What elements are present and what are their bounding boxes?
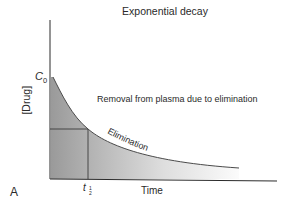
c0-subscript: 0 — [43, 76, 47, 85]
half-life-tick-label: t 1 2 — [83, 183, 86, 193]
area-under-curve — [51, 77, 239, 179]
x-axis — [50, 179, 277, 181]
thalf-fraction: 1 2 — [89, 186, 92, 195]
elimination-annotation: Removal from plasma due to elimination — [97, 95, 258, 104]
chart-title: Exponential decay — [0, 6, 287, 17]
y-axis-label: [Drug] — [21, 80, 32, 120]
plot-area: Elimination — [0, 0, 287, 216]
thalf-main: t — [83, 182, 86, 193]
thalf-denominator: 2 — [89, 190, 92, 196]
c0-main: C — [35, 70, 43, 82]
exponential-decay-figure: Elimination Exponential decay [Drug] C0 … — [0, 0, 287, 216]
c0-tick-label: C0 — [35, 71, 47, 85]
x-axis-label: Time — [141, 186, 163, 196]
panel-label: A — [10, 186, 18, 198]
